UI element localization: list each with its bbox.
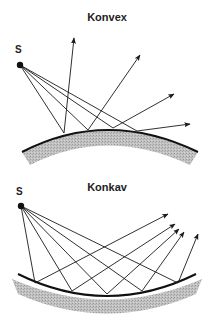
convex-source-dot <box>17 62 23 68</box>
convex-mirror <box>22 130 198 165</box>
concave-source-dot <box>18 203 24 209</box>
convex-reflected-rays <box>64 38 190 133</box>
concave-reflected-rays <box>35 214 198 294</box>
reflection-diagrams-canvas <box>0 0 215 328</box>
convex-incident-rays <box>20 65 137 133</box>
